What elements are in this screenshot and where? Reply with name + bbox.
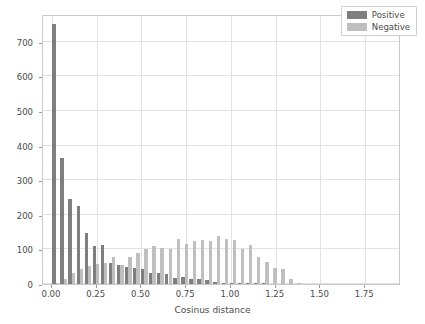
legend-label-positive: Positive	[372, 11, 405, 20]
histogram-figure: 0100200300400500600700 0.000.250.500.751…	[0, 0, 425, 324]
x-tick-mark-1.50	[319, 285, 320, 288]
bar-negative-28	[281, 269, 284, 284]
bar-negative-24	[249, 245, 252, 284]
y-tick-label-200: 200	[0, 212, 33, 221]
bar-negative-23	[241, 249, 244, 284]
bar-negative-12	[152, 246, 155, 284]
x-axis-label: Cosinus distance	[0, 305, 425, 315]
bar-negative-14	[169, 249, 172, 284]
bar-negative-5	[96, 264, 99, 284]
bar-positive-2	[68, 199, 71, 284]
y-tick-mark-0	[39, 285, 42, 286]
y-tick-mark-600	[39, 77, 42, 78]
x-tick-mark-0.50	[140, 285, 141, 288]
legend-item-negative[interactable]: Negative	[347, 23, 410, 32]
x-tick-label-1.75: 1.75	[344, 290, 384, 299]
bar-negative-27	[273, 268, 276, 284]
x-tick-mark-0.00	[51, 285, 52, 288]
bar-negative-18	[201, 240, 204, 284]
bar-negative-29	[289, 279, 292, 284]
bar-negative-30	[297, 283, 300, 284]
x-tick-label-1.00: 1.00	[210, 290, 250, 299]
y-tick-mark-500	[39, 112, 42, 113]
y-tick-mark-100	[39, 250, 42, 251]
y-tick-mark-700	[39, 43, 42, 44]
legend-item-positive[interactable]: Positive	[347, 11, 410, 20]
y-tick-label-0: 0	[0, 281, 33, 290]
bar-negative-16	[185, 244, 188, 284]
x-tick-label-1.25: 1.25	[255, 290, 295, 299]
y-tick-label-700: 700	[0, 39, 33, 48]
bar-positive-0	[52, 24, 55, 284]
bar-negative-15	[177, 239, 180, 284]
plot-area	[42, 15, 400, 285]
x-tick-label-0.75: 0.75	[165, 290, 205, 299]
bar-negative-20	[217, 236, 220, 284]
x-tick-mark-1.75	[364, 285, 365, 288]
y-tick-label-100: 100	[0, 246, 33, 255]
x-tick-label-0.00: 0.00	[31, 290, 71, 299]
bar-negative-22	[233, 240, 236, 284]
x-tick-label-1.50: 1.50	[299, 290, 339, 299]
bar-positive-1	[60, 158, 63, 284]
bar-negative-8	[120, 265, 123, 284]
bar-negative-0	[56, 283, 59, 284]
x-tick-mark-0.25	[96, 285, 97, 288]
bar-negative-9	[128, 257, 131, 284]
legend-swatch-negative-icon	[347, 23, 367, 31]
bar-negative-13	[160, 248, 163, 284]
y-tick-label-300: 300	[0, 177, 33, 186]
bar-negative-1	[64, 279, 67, 284]
bar-negative-4	[88, 266, 91, 284]
bar-negative-17	[193, 241, 196, 284]
bar-negative-21	[225, 239, 228, 284]
bar-negative-25	[257, 257, 260, 284]
chart-legend: Positive Negative	[341, 6, 417, 36]
bar-negative-7	[112, 257, 115, 284]
x-tick-label-0.25: 0.25	[76, 290, 116, 299]
y-tick-mark-400	[39, 147, 42, 148]
bars-layer	[43, 16, 399, 284]
x-tick-mark-1.00	[230, 285, 231, 288]
x-tick-label-0.50: 0.50	[120, 290, 160, 299]
x-tick-mark-0.75	[185, 285, 186, 288]
y-tick-mark-300	[39, 181, 42, 182]
y-tick-label-600: 600	[0, 73, 33, 82]
legend-label-negative: Negative	[372, 23, 410, 32]
bar-negative-2	[72, 273, 75, 284]
bar-negative-19	[209, 241, 212, 284]
bar-negative-3	[80, 269, 83, 284]
x-tick-mark-1.25	[275, 285, 276, 288]
bar-negative-6	[104, 263, 107, 284]
bar-negative-26	[265, 262, 268, 284]
bar-negative-10	[136, 253, 139, 284]
y-tick-label-500: 500	[0, 108, 33, 117]
y-tick-mark-200	[39, 216, 42, 217]
y-tick-label-400: 400	[0, 143, 33, 152]
legend-swatch-positive-icon	[347, 11, 367, 19]
bar-negative-11	[144, 249, 147, 284]
